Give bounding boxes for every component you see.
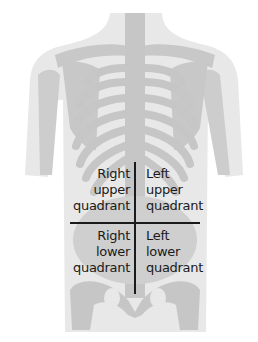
label-right-upper-quadrant: Right upper quadrant bbox=[73, 166, 130, 214]
label-right-lower-quadrant: Right lower quadrant bbox=[73, 228, 130, 276]
label-left-lower-quadrant: Left lower quadrant bbox=[146, 228, 203, 276]
vertical-midline bbox=[134, 162, 136, 294]
torso-diagram: Right upper quadrant Left upper quadrant… bbox=[0, 0, 258, 342]
horizontal-umbilical-line bbox=[70, 222, 200, 224]
label-left-upper-quadrant: Left upper quadrant bbox=[146, 166, 203, 214]
